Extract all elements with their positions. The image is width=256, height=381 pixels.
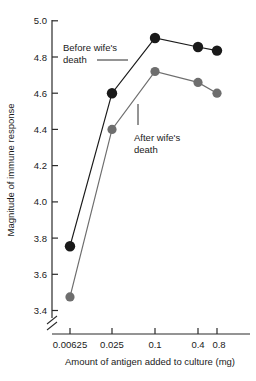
data-point-before-0-4 — [193, 42, 203, 52]
x-tick-label-0-8: 0.8 — [212, 339, 225, 350]
y-tick-label-5-0: 5.0 — [34, 15, 47, 26]
x-tick-label-0-025: 0.025 — [100, 339, 124, 350]
data-point-before-0-1 — [150, 33, 160, 43]
immune-response-line-chart: 3.4 3.6 3.8 4.0 4.2 4.4 4.6 4.8 5.0 Magn… — [0, 0, 256, 381]
annotation-before-line2: death — [63, 54, 87, 65]
x-tick-label-0-00625: 0.00625 — [53, 339, 87, 350]
chart-container: 3.4 3.6 3.8 4.0 4.2 4.4 4.6 4.8 5.0 Magn… — [0, 0, 256, 381]
annotation-before-line1: Before wife's — [63, 42, 117, 53]
x-tick-label-0-4: 0.4 — [191, 339, 204, 350]
data-point-before-0-8 — [212, 45, 222, 55]
x-axis: 0.00625 0.025 0.1 0.4 0.8 Amount of anti… — [52, 328, 250, 367]
y-tick-label-3-4: 3.4 — [34, 305, 47, 316]
data-point-after-0-8 — [212, 89, 221, 98]
annotation-after-line1: After wife's — [134, 132, 180, 143]
y-tick-label-4-4: 4.4 — [34, 124, 47, 135]
y-tick-label-4-2: 4.2 — [34, 160, 47, 171]
x-axis-title: Amount of antigen added to culture (mg) — [65, 356, 235, 367]
data-point-after-0-00625 — [65, 292, 74, 301]
y-tick-label-4-6: 4.6 — [34, 88, 47, 99]
y-tick-label-4-8: 4.8 — [34, 52, 47, 63]
y-tick-label-3-6: 3.6 — [34, 269, 47, 280]
y-tick-label-4-0: 4.0 — [34, 196, 47, 207]
data-point-before-0-00625 — [65, 241, 75, 251]
x-tick-label-0-1: 0.1 — [148, 339, 161, 350]
data-point-before-0-025 — [107, 88, 117, 98]
annotation-after-line2: death — [134, 144, 158, 155]
y-tick-label-3-8: 3.8 — [34, 233, 47, 244]
data-point-after-0-4 — [193, 78, 202, 87]
data-point-after-0-1 — [150, 67, 159, 76]
data-point-after-0-025 — [107, 125, 116, 134]
y-axis-title: Magnitude of immune response — [5, 103, 16, 236]
